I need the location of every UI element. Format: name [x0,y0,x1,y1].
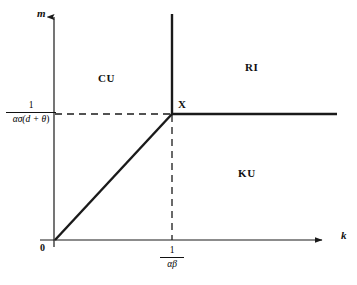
x-axis-label: k [341,230,347,241]
region-label-ku: KU [238,168,256,179]
y-tick-numerator: 1 [6,100,56,112]
diagonal-boundary-line [55,114,172,240]
region-label-ri: RI [245,62,258,73]
point-label-x: X [178,99,186,110]
origin-label: 0 [40,243,45,253]
x-axis-tick-label: 1 αβ [160,245,184,270]
x-tick-denominator: αβ [160,257,184,270]
region-label-cu: CU [98,73,115,84]
y-axis-tick-label: 1 ασ(d + θ) [6,100,56,125]
y-tick-denominator-suffix: ) [46,114,49,124]
phase-diagram-figure: m k 0 1 ασ(d + θ) 1 αβ CU RI KU X [0,0,357,285]
y-tick-denominator-inner: d + θ [26,114,47,124]
phase-diagram-canvas [0,0,357,285]
x-tick-numerator: 1 [160,245,184,257]
y-tick-denominator-prefix: ασ( [13,114,26,124]
y-axis-label: m [37,8,46,19]
y-tick-denominator: ασ(d + θ) [6,112,56,125]
